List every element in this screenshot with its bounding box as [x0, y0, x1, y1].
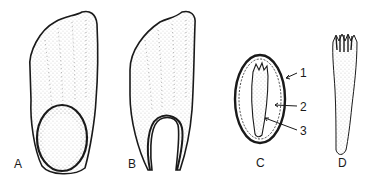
panel-c: 1 2 3 C: [235, 55, 307, 170]
seed-b-body: [130, 12, 195, 171]
callout-1: 1: [300, 66, 307, 80]
callout-3: 3: [300, 124, 307, 138]
panel-label-a: A: [14, 157, 22, 171]
embryo-d: [333, 34, 357, 155]
panel-label-d: D: [338, 156, 347, 170]
panel-label-b: B: [128, 157, 136, 171]
panel-d: D: [333, 34, 357, 170]
seed-illustration: A B 1 2 3 C D: [0, 0, 380, 179]
panel-b: B: [128, 12, 195, 172]
panel-label-c: C: [256, 156, 265, 170]
panel-a: A: [14, 12, 98, 174]
embryo-c: [252, 63, 268, 137]
callout-2: 2: [300, 100, 307, 114]
